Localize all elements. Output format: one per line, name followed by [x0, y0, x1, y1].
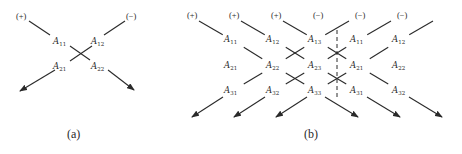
- plus-sign: (+): [16, 11, 27, 21]
- entry-a32: A32: [391, 85, 405, 96]
- entry-a22: A22: [90, 61, 104, 72]
- arrow-left: [276, 97, 307, 117]
- entry-a12: A12: [391, 34, 405, 45]
- diagonal-line: [29, 21, 50, 35]
- arrow-left: [192, 97, 223, 117]
- diagonal-line: [370, 47, 388, 58]
- caption-a: (a): [67, 127, 80, 141]
- diagonal-line: [104, 21, 125, 35]
- entry-a11: A11: [349, 34, 363, 45]
- diagonal-line: [70, 46, 90, 60]
- entry-a31: A31: [349, 85, 363, 96]
- minus-sign: (−): [126, 11, 137, 21]
- figure-a: (+) (−) A11 A12 A21 A22 (a): [16, 11, 137, 141]
- plus-sign: (+): [271, 10, 282, 20]
- entry-a21: A21: [349, 60, 363, 71]
- diagonal-line: [367, 21, 391, 35]
- diagonal-line: [409, 21, 433, 35]
- entry-a13: A13: [307, 34, 322, 45]
- entry-a21: A21: [52, 61, 66, 72]
- entry-a22: A22: [265, 60, 279, 71]
- entry-a12: A12: [265, 34, 279, 45]
- entry-a32: A32: [265, 85, 279, 96]
- arrow-left: [234, 97, 265, 117]
- entry-a33: A33: [307, 85, 322, 96]
- diagonal-line: [283, 21, 307, 35]
- entry-a11: A11: [52, 36, 66, 47]
- diagonal-line: [199, 21, 223, 35]
- caption-b: (b): [304, 127, 318, 141]
- diagonal-line: [244, 73, 262, 84]
- diagonal-line: [241, 21, 265, 35]
- entry-a12: A12: [90, 36, 104, 47]
- entry-a11: A11: [223, 34, 237, 45]
- minus-sign: (−): [397, 10, 408, 20]
- minus-sign: (−): [355, 10, 366, 20]
- arrow-right: [108, 70, 134, 90]
- entry-a21: A21: [223, 60, 237, 71]
- diagonal-line: [244, 47, 262, 58]
- arrow-right: [367, 97, 400, 117]
- plus-sign: (+): [187, 10, 198, 20]
- arrow-right: [325, 97, 358, 117]
- determinant-diagram: (+) (−) A11 A12 A21 A22 (a) (+)(+)(+)(−)…: [0, 0, 462, 154]
- figure-b: (+)(+)(+)(−)(−)(−)A11A12A13A11A12A21A22A…: [187, 10, 442, 117]
- entry-a23: A23: [307, 60, 322, 71]
- arrow-left: [20, 70, 55, 91]
- plus-sign: (+): [229, 10, 240, 20]
- arrow-right: [409, 97, 442, 117]
- diagonal-line: [370, 73, 388, 84]
- minus-sign: (−): [313, 10, 324, 20]
- entry-a22: A22: [391, 60, 405, 71]
- entry-a31: A31: [223, 85, 237, 96]
